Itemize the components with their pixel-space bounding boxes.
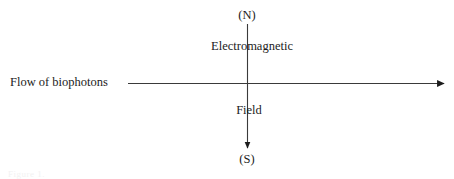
field-label: Field: [236, 104, 262, 117]
flow-of-biophotons-label: Flow of biophotons: [10, 76, 108, 89]
electromagnetic-label: Electromagnetic: [211, 40, 293, 53]
south-pole-label: (S): [239, 153, 254, 166]
figure-canvas: (N) Electromagnetic Flow of biophotons F…: [0, 0, 454, 179]
axis-diagram: [0, 0, 454, 179]
figure-caption-remnant: Figure 1.: [8, 170, 45, 179]
north-pole-label: (N): [238, 9, 255, 22]
